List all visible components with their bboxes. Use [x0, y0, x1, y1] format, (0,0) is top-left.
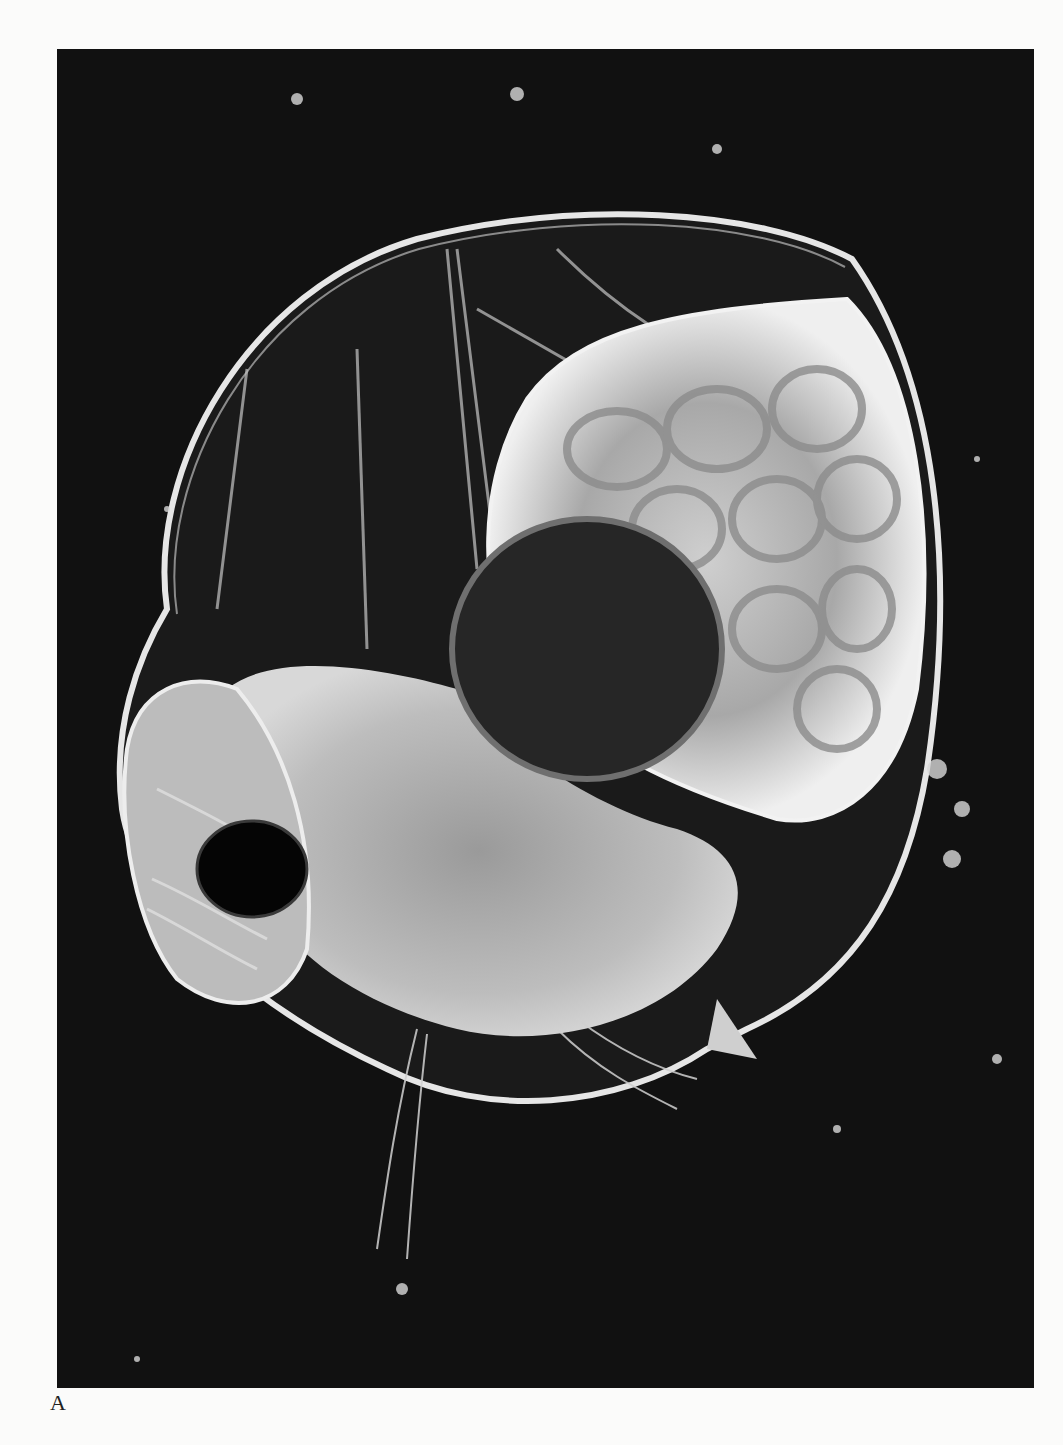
- specimen-illustration: [57, 49, 1034, 1388]
- dark-mass: [452, 519, 722, 779]
- panel-label: A: [50, 1390, 66, 1416]
- micrograph-photo: [57, 49, 1034, 1388]
- compound-eye: [197, 821, 307, 917]
